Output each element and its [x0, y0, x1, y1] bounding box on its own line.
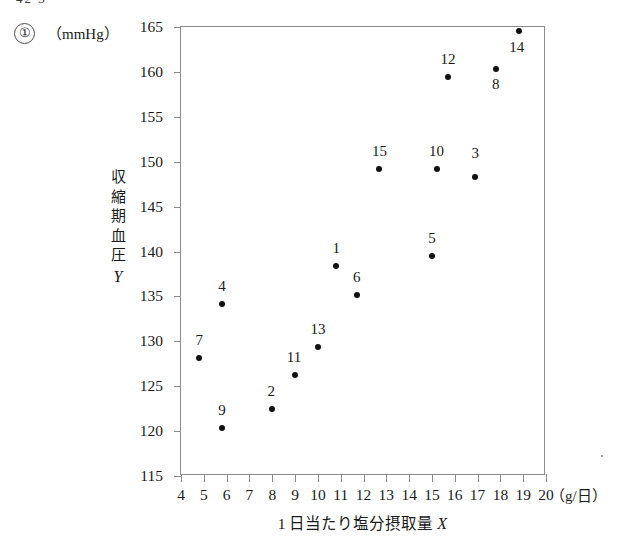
y-axis-tick: 145 — [174, 207, 181, 208]
x-axis-tick — [386, 474, 387, 482]
x-axis-tick-label: 12 — [356, 486, 372, 504]
data-point — [269, 406, 275, 412]
y-axis-unit-label: （mmHg） — [47, 22, 119, 43]
data-point-label: 7 — [196, 332, 204, 349]
y-axis-tick: 135 — [174, 296, 181, 297]
y-axis-tick: 120 — [174, 431, 181, 432]
data-point-label: 8 — [492, 76, 500, 93]
data-point-label: 3 — [472, 145, 480, 162]
x-axis-tick — [204, 474, 205, 482]
y-axis-title: 収縮期血圧Y — [108, 168, 128, 286]
data-point-label: 6 — [353, 269, 361, 286]
top-cutoff-text: 42 3 — [16, 0, 47, 7]
y-axis-tick-label: 140 — [140, 243, 163, 261]
y-axis-title-char: 収 — [108, 168, 128, 188]
y-axis-tick: 160 — [174, 72, 181, 73]
data-point-label: 15 — [372, 143, 387, 160]
x-axis-title-text: 1 日当たり塩分摂取量 — [278, 515, 438, 532]
x-axis-tick — [227, 474, 228, 482]
x-axis-tick-label: 6 — [223, 486, 231, 504]
x-axis-tick — [181, 474, 182, 482]
x-axis-tick — [249, 474, 250, 482]
y-axis-tick-label: 150 — [140, 153, 163, 171]
data-point — [376, 166, 382, 172]
data-point — [196, 355, 202, 361]
data-point — [429, 253, 435, 259]
y-axis-title-char: 血 — [108, 227, 128, 247]
y-axis-title-char: 期 — [108, 207, 128, 227]
x-axis-tick-label: 7 — [246, 486, 254, 504]
y-axis-tick: 130 — [174, 341, 181, 342]
data-point — [315, 344, 321, 350]
y-axis-tick-label: 145 — [140, 198, 163, 216]
y-axis-symbol: Y — [108, 267, 128, 287]
data-point-label: 14 — [509, 39, 524, 56]
y-axis-title-char: 縮 — [108, 188, 128, 208]
data-point-label: 11 — [287, 349, 301, 366]
x-axis-tick-label: 5 — [200, 486, 208, 504]
y-axis-tick-label: 135 — [140, 287, 163, 305]
data-point — [493, 66, 499, 72]
x-axis-tick-label: 14 — [401, 486, 417, 504]
data-point-label: 2 — [268, 383, 276, 400]
x-axis-tick — [364, 474, 365, 482]
x-axis-tick-label: 17 — [470, 486, 486, 504]
y-axis-tick-label: 130 — [140, 332, 163, 350]
x-axis-tick-label: 13 — [379, 486, 395, 504]
x-axis-title: 1 日当たり塩分摂取量 X — [180, 511, 545, 533]
data-point-label: 10 — [429, 143, 444, 160]
y-axis-tick-label: 120 — [140, 422, 163, 440]
data-point-label: 13 — [310, 321, 325, 338]
scatter-plot-area: 115120125130135140145150155160165 456789… — [180, 26, 545, 475]
x-axis-tick-label: 9 — [291, 486, 299, 504]
x-axis-tick-label: 4 — [177, 486, 185, 504]
x-axis-tick — [478, 474, 479, 482]
x-axis-tick — [341, 474, 342, 482]
y-axis-tick: 140 — [174, 252, 181, 253]
y-axis-tick-label: 125 — [140, 377, 163, 395]
x-axis-symbol: X — [437, 515, 447, 532]
x-axis-unit-label: （g/日） — [550, 484, 607, 505]
data-point — [333, 263, 339, 269]
y-axis-tick: 165 — [174, 27, 181, 28]
stray-mark — [601, 455, 603, 457]
data-point — [472, 174, 478, 180]
x-axis-tick — [546, 474, 547, 482]
x-axis-tick-label: 18 — [493, 486, 509, 504]
x-axis-tick — [500, 474, 501, 482]
x-axis-tick-label: 10 — [310, 486, 326, 504]
x-axis-tick — [272, 474, 273, 482]
question-number-badge: ① — [14, 23, 35, 44]
data-point — [219, 425, 225, 431]
x-axis-tick — [409, 474, 410, 482]
y-axis-tick-label: 115 — [140, 467, 163, 485]
x-axis-tick — [455, 474, 456, 482]
data-point — [354, 292, 360, 298]
data-point — [445, 74, 451, 80]
y-axis-tick: 155 — [174, 117, 181, 118]
x-axis-tick-label: 11 — [333, 486, 348, 504]
data-point — [434, 166, 440, 172]
data-point-label: 9 — [218, 402, 226, 419]
x-axis-tick — [318, 474, 319, 482]
y-axis-tick: 115 — [174, 476, 181, 477]
data-point-label: 4 — [218, 278, 226, 295]
y-axis-tick-label: 155 — [140, 108, 163, 126]
data-point — [516, 28, 522, 34]
y-axis-tick: 150 — [174, 162, 181, 163]
data-point — [292, 372, 298, 378]
x-axis-tick — [523, 474, 524, 482]
y-axis-title-char: 圧 — [108, 246, 128, 266]
x-axis-tick-label: 16 — [447, 486, 463, 504]
y-axis-tick-label: 160 — [140, 63, 163, 81]
data-point-label: 5 — [428, 230, 436, 247]
x-axis-tick-label: 8 — [268, 486, 276, 504]
x-axis-tick-label: 15 — [424, 486, 440, 504]
data-point — [219, 301, 225, 307]
x-axis-tick — [295, 474, 296, 482]
data-point-label: 12 — [440, 51, 455, 68]
x-axis-tick — [432, 474, 433, 482]
data-point-label: 1 — [332, 240, 340, 257]
x-axis-tick-label: 19 — [515, 486, 531, 504]
y-axis-tick: 125 — [174, 386, 181, 387]
